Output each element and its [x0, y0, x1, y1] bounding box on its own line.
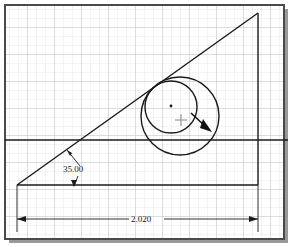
angular-dimension-label[interactable]: 35.00	[63, 164, 84, 174]
sketch-canvas-window: 35.00 2.020	[0, 0, 293, 247]
grid-area	[5, 5, 284, 239]
drawing-canvas[interactable]: 35.00 2.020	[0, 0, 293, 247]
circle-center-point[interactable]	[170, 105, 173, 108]
linear-dimension-label[interactable]: 2.020	[131, 214, 152, 224]
